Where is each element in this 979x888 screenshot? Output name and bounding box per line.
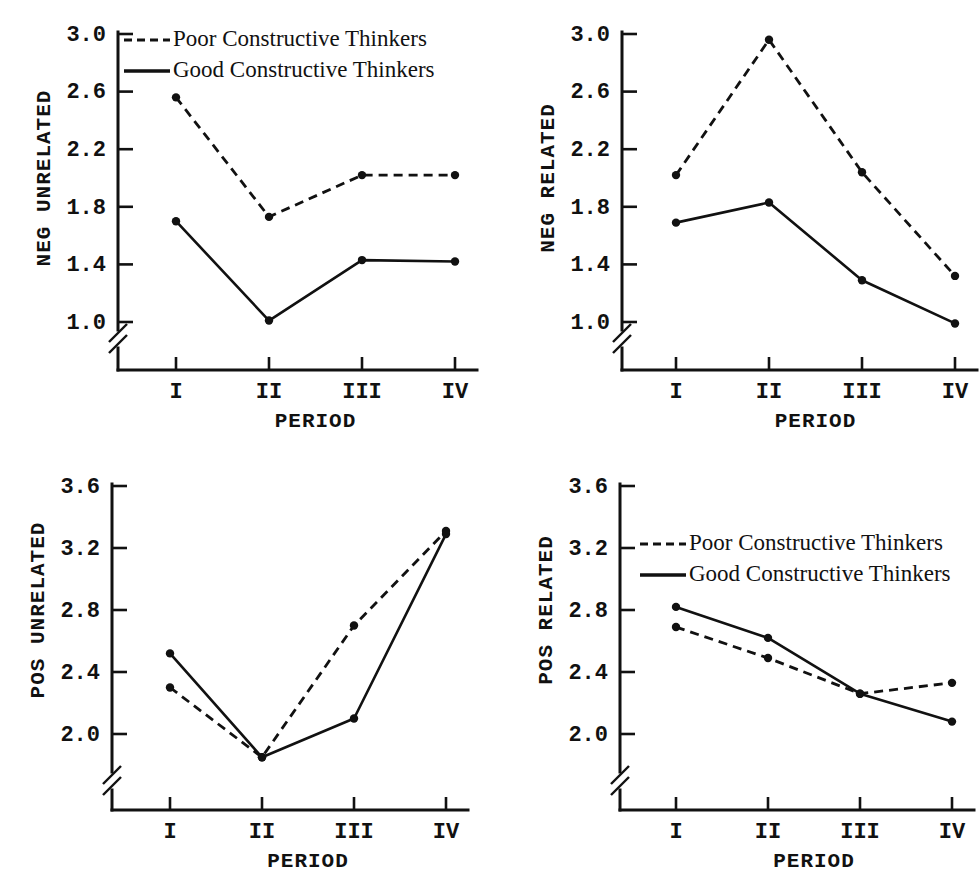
data-point-marker — [172, 93, 180, 101]
data-point-marker — [265, 213, 273, 221]
y-axis-tick-label: 2.8 — [60, 599, 100, 624]
legend-label-poor: Poor Constructive Thinkers — [689, 530, 943, 555]
x-axis-tick-label: III — [842, 380, 882, 405]
data-point-marker — [764, 634, 772, 642]
multi-panel-line-chart-figure: 1.01.41.82.22.63.0IIIIIIIVPERIODNEG UNRE… — [0, 0, 979, 888]
y-axis-tick-label: 3.0 — [66, 23, 106, 48]
series-line-good — [170, 534, 446, 757]
chart-svg: 2.02.42.83.23.6IIIIIIIVPERIODPOS RELATED… — [490, 444, 979, 888]
x-axis-tick-label: III — [342, 380, 382, 405]
data-point-marker — [951, 319, 959, 327]
y-axis-tick-label: 3.6 — [60, 475, 100, 500]
x-axis-tick-label: III — [840, 820, 880, 845]
data-point-marker — [765, 36, 773, 44]
y-axis-tick-label: 2.2 — [66, 138, 106, 163]
x-axis-tick-label: IV — [939, 820, 966, 845]
y-axis-tick-label: 2.0 — [60, 723, 100, 748]
y-axis-tick-label: 1.8 — [66, 196, 106, 221]
y-axis-tick-label: 2.0 — [568, 723, 608, 748]
x-axis-tick-label: II — [256, 380, 282, 405]
y-axis-tick-label: 3.0 — [570, 23, 610, 48]
y-axis-tick-label: 3.6 — [568, 475, 608, 500]
data-point-marker — [166, 683, 174, 691]
data-point-marker — [442, 530, 450, 538]
y-axis-tick-label: 2.4 — [60, 661, 100, 686]
data-point-marker — [258, 753, 266, 761]
x-axis-tick-label: I — [163, 820, 176, 845]
series-line-poor — [676, 627, 952, 694]
series-line-poor — [170, 531, 446, 757]
chart-panel-pos-related: 2.02.42.83.23.6IIIIIIIVPERIODPOS RELATED… — [490, 444, 979, 888]
x-axis-tick-label: I — [669, 380, 682, 405]
data-point-marker — [858, 168, 866, 176]
data-point-marker — [172, 217, 180, 225]
data-point-marker — [948, 679, 956, 687]
legend-label-poor: Poor Constructive Thinkers — [173, 26, 427, 51]
y-axis-tick-label: 1.0 — [570, 311, 610, 336]
data-point-marker — [672, 623, 680, 631]
y-axis-tick-label: 1.4 — [570, 253, 610, 278]
data-point-marker — [765, 198, 773, 206]
data-point-marker — [858, 276, 866, 284]
x-axis-title: PERIOD — [275, 410, 357, 433]
y-axis-title: NEG UNRELATED — [33, 90, 56, 267]
chart-svg: 1.01.41.82.22.63.0IIIIIIIVPERIODNEG UNRE… — [0, 0, 489, 444]
x-axis-title: PERIOD — [267, 850, 349, 873]
data-point-marker — [764, 654, 772, 662]
y-axis-title: POS UNRELATED — [27, 522, 50, 699]
x-axis-tick-label: IV — [442, 380, 469, 405]
legend-label-good: Good Constructive Thinkers — [689, 561, 951, 586]
series-line-good — [676, 202, 955, 323]
data-point-marker — [358, 256, 366, 264]
y-axis-tick-label: 1.8 — [570, 196, 610, 221]
y-axis-tick-label: 2.6 — [570, 80, 610, 105]
x-axis-tick-label: IV — [433, 820, 460, 845]
series-line-good — [176, 221, 455, 320]
y-axis-tick-label: 3.2 — [60, 537, 100, 562]
y-axis-tick-label: 3.2 — [568, 537, 608, 562]
x-axis-title: PERIOD — [773, 850, 855, 873]
y-axis-title: POS RELATED — [535, 535, 558, 685]
x-axis-tick-label: I — [169, 380, 182, 405]
data-point-marker — [951, 272, 959, 280]
series-line-good — [676, 607, 952, 722]
data-point-marker — [672, 218, 680, 226]
x-axis-tick-label: II — [756, 380, 782, 405]
x-axis-tick-label: IV — [942, 380, 969, 405]
y-axis-tick-label: 2.8 — [568, 599, 608, 624]
chart-panel-pos-unrelated: 2.02.42.83.23.6IIIIIIIVPERIODPOS UNRELAT… — [0, 444, 489, 888]
data-point-marker — [265, 316, 273, 324]
data-point-marker — [358, 171, 366, 179]
x-axis-tick-label: II — [249, 820, 275, 845]
chart-svg: 2.02.42.83.23.6IIIIIIIVPERIODPOS UNRELAT… — [0, 444, 489, 888]
chart-panel-neg-unrelated: 1.01.41.82.22.63.0IIIIIIIVPERIODNEG UNRE… — [0, 0, 489, 444]
data-point-marker — [350, 621, 358, 629]
data-point-marker — [451, 171, 459, 179]
data-point-marker — [451, 257, 459, 265]
series-line-poor — [176, 97, 455, 217]
x-axis-tick-label: III — [334, 820, 374, 845]
legend-label-good: Good Constructive Thinkers — [173, 57, 435, 82]
y-axis-tick-label: 1.4 — [66, 253, 106, 278]
data-point-marker — [166, 649, 174, 657]
x-axis-title: PERIOD — [775, 410, 857, 433]
data-point-marker — [350, 714, 358, 722]
y-axis-tick-label: 1.0 — [66, 311, 106, 336]
x-axis-tick-label: II — [755, 820, 781, 845]
y-axis-tick-label: 2.2 — [570, 138, 610, 163]
chart-panel-neg-related: 1.01.41.82.22.63.0IIIIIIIVPERIODNEG RELA… — [490, 0, 979, 444]
y-axis-tick-label: 2.4 — [568, 661, 608, 686]
data-point-marker — [856, 690, 864, 698]
data-point-marker — [672, 603, 680, 611]
data-point-marker — [672, 171, 680, 179]
y-axis-tick-label: 2.6 — [66, 80, 106, 105]
data-point-marker — [948, 717, 956, 725]
x-axis-tick-label: I — [669, 820, 682, 845]
chart-svg: 1.01.41.82.22.63.0IIIIIIIVPERIODNEG RELA… — [490, 0, 979, 444]
y-axis-title: NEG RELATED — [537, 103, 560, 253]
